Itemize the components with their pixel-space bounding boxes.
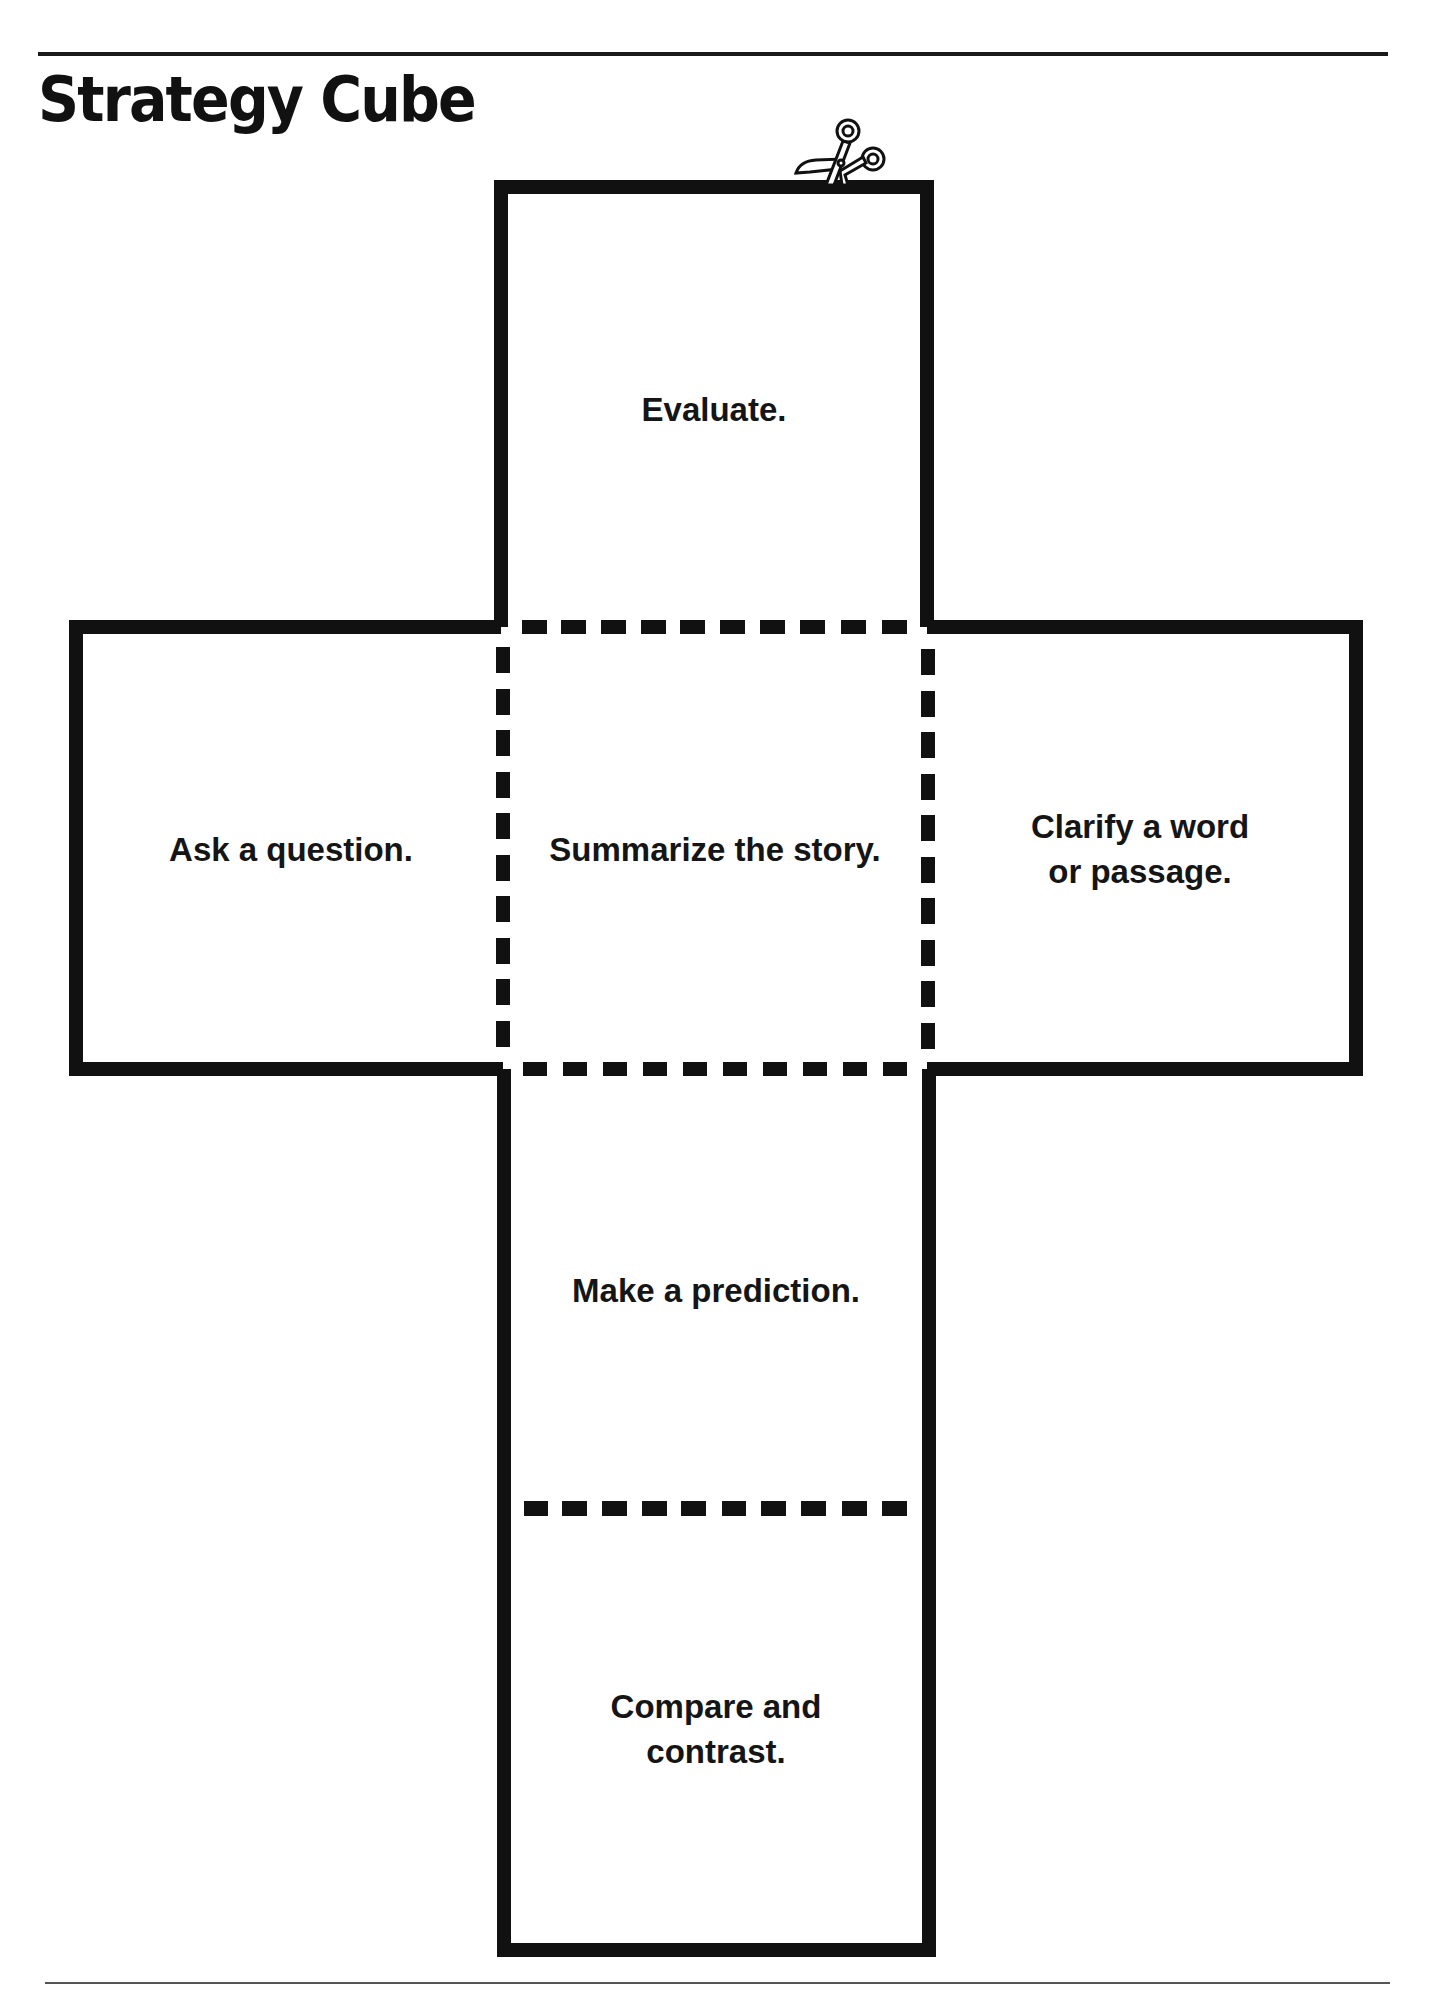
fold-line-lower <box>524 1501 907 1516</box>
face-label-left: Ask a question. <box>169 827 413 872</box>
face-label-top: Evaluate. <box>642 387 787 432</box>
fold-lines <box>496 620 935 1516</box>
fold-line-left <box>496 647 510 1047</box>
face-label-right: Clarify a word or passage. <box>1031 804 1249 894</box>
face-label-center: Summarize the story. <box>549 827 880 872</box>
face-label-right-line2: or passage. <box>1031 849 1249 894</box>
fold-line-bottom <box>523 1062 907 1076</box>
face-label-bottom-line2: contrast. <box>611 1729 822 1774</box>
face-label-bottom-line1: Compare and <box>611 1684 822 1729</box>
face-label-bottom: Compare and contrast. <box>611 1684 822 1774</box>
bottom-rule <box>45 1982 1390 1984</box>
face-label-lower: Make a prediction. <box>572 1268 860 1313</box>
fold-line-top <box>522 620 907 634</box>
scissors-icon <box>790 115 890 185</box>
fold-line-right <box>921 649 935 1049</box>
face-label-right-line1: Clarify a word <box>1031 804 1249 849</box>
